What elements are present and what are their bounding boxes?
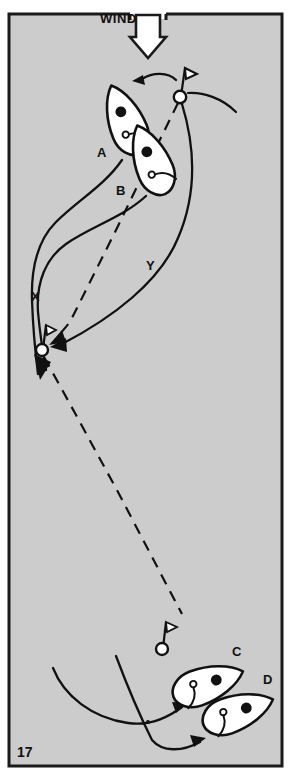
middle-mark-buoy-icon [36, 344, 48, 356]
track-y-label: Y [146, 258, 155, 273]
figure-panel: WIND Y X [0, 0, 291, 774]
upper-mark-buoy-icon [174, 91, 186, 103]
sailing-tactics-diagram: WIND Y X [0, 0, 291, 774]
boat-c-label: C [232, 644, 242, 659]
page-number: 17 [17, 744, 33, 760]
boat-b-label: B [116, 183, 125, 198]
track-x-label: X [31, 289, 40, 304]
track-crossing-dot [146, 720, 150, 724]
lower-mark-buoy-icon [156, 643, 168, 655]
wind-label: WIND [100, 11, 137, 26]
boat-a-label: A [97, 145, 107, 160]
boat-d-label: D [263, 672, 272, 687]
